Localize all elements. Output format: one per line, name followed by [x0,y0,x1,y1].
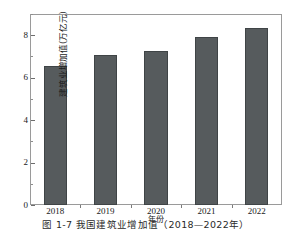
y-tick-mark-2 [31,163,35,164]
y-axis-tick-labels: 02468 [10,0,28,229]
y-tick-mark-6 [31,78,35,79]
y-axis-title: 建筑业增加值(万亿元) [57,0,69,119]
y-minor-tick-9 [31,14,33,15]
y-tick-mark-4 [31,120,35,121]
y-minor-tick-3 [31,141,33,142]
y-tick-label-0: 0 [14,201,28,210]
y-tick-label-8: 8 [14,31,28,40]
y-minor-tick-5 [31,99,33,100]
y-tick-label-4: 4 [14,116,28,125]
figure-caption: 图 1-7 我国建筑业增加值（2018—2022年） [0,219,292,229]
bar-2021 [195,37,218,205]
y-tick-label-6: 6 [14,73,28,82]
y-tick-mark-8 [31,35,35,36]
y-minor-tick-1 [31,184,33,185]
y-tick-label-2: 2 [14,158,28,167]
y-minor-tick-7 [31,56,33,57]
y-axis-tick-marks [31,0,37,229]
bar-2022 [245,28,268,205]
bar-2020 [144,51,167,205]
bar-2019 [94,55,117,205]
figure-container: 02468 建筑业增加值(万亿元) 20182019202020212022 年… [0,0,292,229]
